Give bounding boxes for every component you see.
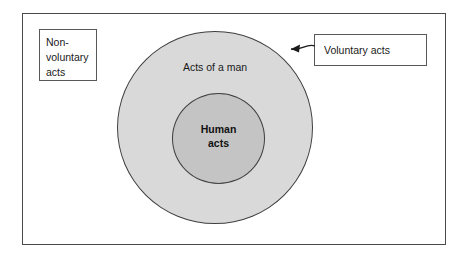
inner-circle-label: Human acts (172, 122, 265, 150)
inner-circle-label-line1: Human (172, 122, 265, 136)
callout-non-voluntary-line1: Non- (46, 35, 96, 50)
callout-non-voluntary-line2: voluntary (46, 50, 96, 65)
callout-voluntary-acts[interactable]: Voluntary acts (314, 34, 427, 66)
inner-circle-label-line2: acts (172, 136, 265, 150)
callout-voluntary-label: Voluntary acts (324, 44, 390, 56)
curved-arrow-to-outer-circle (276, 34, 321, 64)
diagram-frame: Acts of a man Human acts Non- voluntary … (22, 13, 446, 245)
diagram-canvas: Acts of a man Human acts Non- voluntary … (0, 0, 469, 259)
callout-non-voluntary-acts[interactable]: Non- voluntary acts (39, 29, 97, 81)
callout-non-voluntary-line3: acts (46, 65, 96, 80)
